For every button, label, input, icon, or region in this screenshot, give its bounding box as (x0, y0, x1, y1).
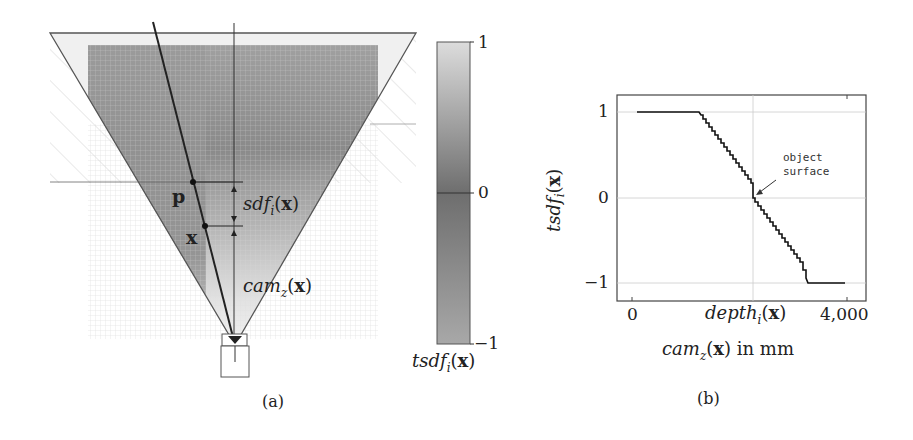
ytick-minus1: −1 (584, 272, 609, 292)
point-x-label: x (186, 226, 197, 248)
camz-label: camz(x) (243, 275, 312, 300)
caption-b: (b) (697, 389, 720, 408)
xtick-depth: depthi(x) (705, 302, 786, 327)
colorbar-max-label: 1 (478, 32, 489, 52)
xtick-0: 0 (627, 304, 638, 324)
x-axis-label: camz(x) in mm (662, 338, 794, 363)
colorbar-min-label: −1 (474, 333, 499, 353)
colorbar-title: tsdfi(x) (412, 350, 475, 375)
point-x (202, 223, 208, 229)
xtick-4000: 4,000 (820, 304, 869, 324)
point-p-label: p (172, 185, 185, 207)
object-surface-annotation: object surface (783, 151, 829, 179)
y-axis-label: tsdfi(x) (543, 155, 568, 245)
caption-a: (a) (262, 392, 284, 411)
sdf-label: sdfi(x) (243, 193, 299, 218)
ytick-0: 0 (598, 187, 609, 207)
point-p (190, 179, 196, 185)
colorbar-mid-label: 0 (478, 182, 489, 202)
ytick-1: 1 (598, 101, 609, 121)
tsdf-plot (617, 95, 866, 301)
